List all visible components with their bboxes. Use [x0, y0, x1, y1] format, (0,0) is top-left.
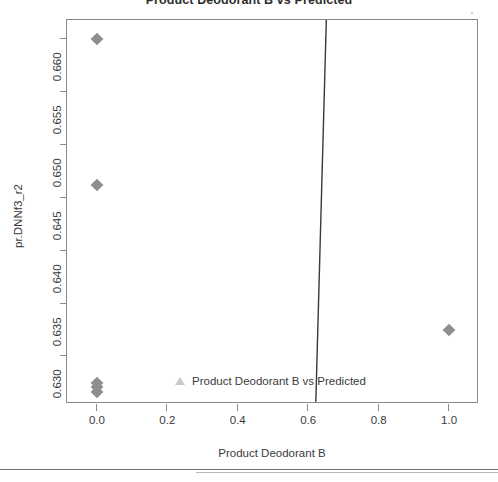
data-point: [91, 179, 104, 192]
chart-legend: Product Deodorant B vs Predicted: [175, 375, 366, 387]
x-tick-mark: [237, 404, 238, 411]
x-tick-label: 0.0: [89, 414, 105, 426]
x-tick-label: 0.2: [159, 414, 175, 426]
data-point: [91, 33, 104, 46]
footer-divider-secondary: [196, 472, 498, 473]
y-tick-label: 0.660: [51, 52, 63, 81]
chart-title: Product Deodorant B vs Predicted: [0, 0, 498, 7]
x-tick-label: 0.6: [300, 414, 316, 426]
x-tick-label: 1.0: [441, 414, 457, 426]
y-axis-label: pr.DNNf3_r2: [12, 46, 24, 386]
y-tick-label: 0.630: [51, 370, 63, 399]
x-tick-mark: [448, 404, 449, 411]
data-point: [443, 324, 456, 337]
y-tick-label: 0.640: [51, 264, 63, 293]
footer-divider: [0, 469, 498, 470]
y-tick-label: 0.650: [51, 158, 63, 187]
y-tick-mark: [60, 197, 67, 198]
x-tick-mark: [166, 404, 167, 411]
y-tick-label: 0.645: [51, 211, 63, 240]
y-tick-mark: [60, 355, 67, 356]
y-tick-mark: [60, 303, 67, 304]
x-axis-label: Product Deodorant B: [66, 447, 478, 459]
plot-frame: Product Deodorant B vs Predicted 0.6300.…: [66, 19, 478, 403]
x-tick-label: 0.8: [371, 414, 387, 426]
x-tick-mark: [378, 404, 379, 411]
y-tick-mark: [60, 38, 67, 39]
y-tick-mark: [60, 250, 67, 251]
artifact-speck: [471, 12, 473, 14]
legend-label: Product Deodorant B vs Predicted: [192, 375, 366, 387]
y-tick-label: 0.655: [51, 105, 63, 134]
x-tick-label: 0.4: [230, 414, 246, 426]
y-tick-mark: [60, 91, 67, 92]
y-tick-mark: [60, 144, 67, 145]
plot-area: [67, 20, 477, 402]
regression-line: [67, 20, 477, 402]
triangle-icon: [175, 377, 185, 385]
x-tick-mark: [307, 404, 308, 411]
y-tick-label: 0.635: [51, 317, 63, 346]
x-tick-mark: [96, 404, 97, 411]
